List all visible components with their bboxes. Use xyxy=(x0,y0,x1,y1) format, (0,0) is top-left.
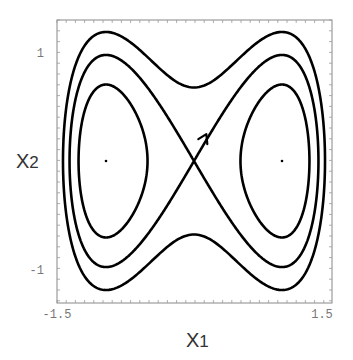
fixed-point-0 xyxy=(105,160,108,163)
separatrix-left xyxy=(70,55,194,267)
phase-curves xyxy=(63,32,325,290)
inner-orbit-left xyxy=(79,85,148,238)
ytick-neg1: -1 xyxy=(30,264,44,278)
fixed-point-1 xyxy=(281,160,284,163)
xtick-neg1-5: -1.5 xyxy=(43,308,72,322)
xtick-1-5: 1.5 xyxy=(311,308,333,322)
ytick-1: 1 xyxy=(37,47,44,61)
phase-portrait-chart: 1 -1 -1.5 1.5 X1 X2 xyxy=(0,0,353,360)
x-axis-label: X1 xyxy=(186,329,209,351)
inner-orbit-right xyxy=(240,85,309,238)
y-axis-label: X2 xyxy=(16,150,39,172)
separatrix-right xyxy=(194,55,318,267)
